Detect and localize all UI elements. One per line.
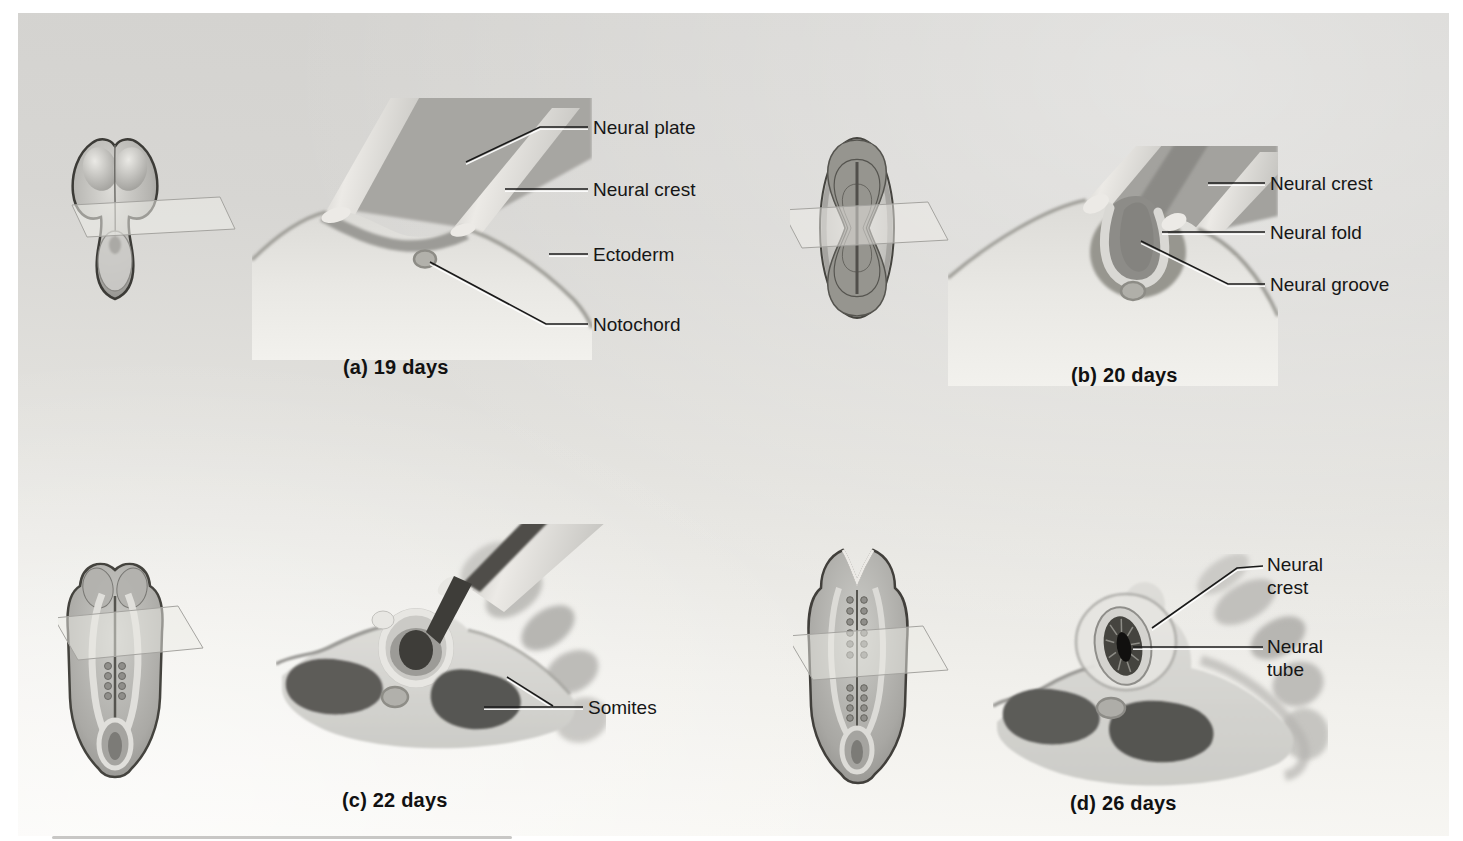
label-neural-crest-a: Neural crest	[593, 178, 695, 201]
cross-section-20-days	[948, 146, 1278, 386]
figure-page: Neural plate Neural crest Ectoderm Notoc…	[0, 0, 1463, 841]
label-notochord: Notochord	[593, 313, 681, 336]
section-plane-b	[790, 202, 948, 248]
embryo-dorsal-view-22-days	[58, 548, 273, 798]
label-neural-tube: Neural tube	[1267, 635, 1331, 681]
label-neural-plate: Neural plate	[593, 116, 695, 139]
label-neural-fold: Neural fold	[1270, 221, 1362, 244]
scan-artifact-line	[52, 836, 512, 839]
caption-panel-a: (a) 19 days	[343, 356, 449, 379]
embryo-dorsal-view-26-days	[793, 538, 1018, 806]
cross-section-22-days	[276, 524, 606, 784]
label-neural-crest-b: Neural crest	[1270, 172, 1372, 195]
label-somites: Somites	[588, 696, 657, 719]
cross-section-19-days	[252, 98, 592, 360]
caption-panel-d: (d) 26 days	[1070, 792, 1177, 815]
notochord-shape-a	[414, 251, 436, 268]
notochord-shape-c	[382, 687, 408, 707]
embryo-dorsal-view-19-days	[70, 103, 250, 338]
label-ectoderm: Ectoderm	[593, 243, 674, 266]
caption-panel-b: (b) 20 days	[1071, 364, 1178, 387]
caption-panel-c: (c) 22 days	[342, 789, 448, 812]
section-plane-d	[793, 626, 948, 680]
notochord-shape-d	[1097, 698, 1125, 718]
embryo-dorsal-view-20-days	[790, 122, 965, 362]
notochord-shape-b	[1121, 282, 1145, 300]
label-neural-crest-d: Neural crest	[1267, 553, 1331, 599]
label-neural-groove: Neural groove	[1270, 273, 1389, 296]
